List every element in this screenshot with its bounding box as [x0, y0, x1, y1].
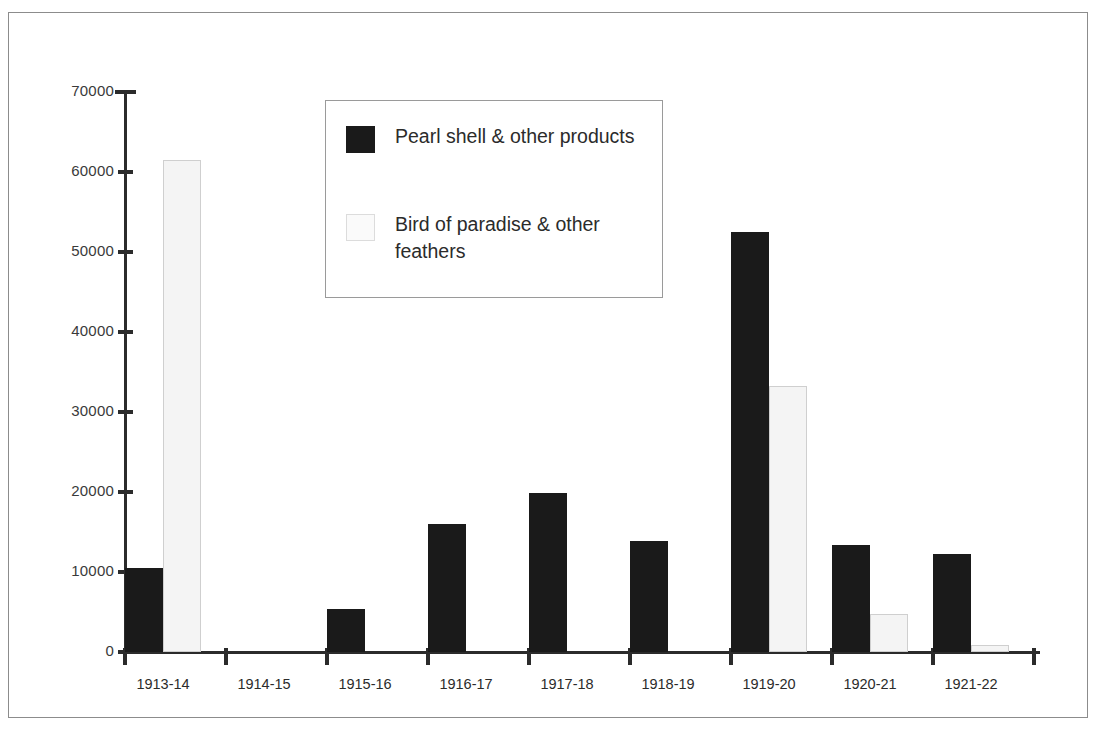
y-axis-tick-label: 0 — [44, 642, 114, 659]
y-axis-tick-label: 70000 — [44, 82, 114, 99]
bar — [933, 554, 971, 652]
x-axis-tick — [224, 648, 228, 665]
y-axis-tick — [118, 170, 133, 174]
legend-item-pearl-shell: Pearl shell & other products — [346, 123, 650, 153]
legend-item-bird-of-paradise: Bird of paradise & other feathers — [346, 211, 650, 265]
y-axis-tick-label: 30000 — [44, 402, 114, 419]
y-axis-tick-label: 40000 — [44, 322, 114, 339]
bar-chart-plot-area: 010000200003000040000500006000070000 191… — [0, 0, 1098, 732]
bar — [327, 609, 365, 652]
bar — [428, 524, 466, 652]
y-axis-tick — [118, 330, 133, 334]
legend-swatch-light-icon — [346, 214, 375, 241]
legend-label: Bird of paradise & other feathers — [395, 211, 650, 265]
y-axis-tick-label: 60000 — [44, 162, 114, 179]
bar — [630, 541, 668, 652]
y-axis-tick-label: 50000 — [44, 242, 114, 259]
legend-label: Pearl shell & other products — [395, 123, 650, 150]
y-axis-tick-label: 10000 — [44, 562, 114, 579]
x-axis-tick-label: 1920-21 — [820, 676, 921, 692]
x-axis-tick-label: 1917-18 — [517, 676, 618, 692]
bar — [769, 386, 807, 652]
y-axis-tick — [115, 90, 136, 94]
x-axis-tick-label: 1918-19 — [618, 676, 719, 692]
x-axis-tick-label: 1916-17 — [416, 676, 517, 692]
bar — [870, 614, 908, 652]
y-axis-tick-label: 20000 — [44, 482, 114, 499]
bar — [971, 645, 1009, 652]
x-axis-tick-label: 1921-22 — [921, 676, 1022, 692]
bar — [731, 232, 769, 652]
chart-legend: Pearl shell & other products Bird of par… — [325, 100, 663, 298]
y-axis-tick — [118, 410, 133, 414]
x-axis-end-tick — [1032, 648, 1036, 665]
x-axis-tick-label: 1919-20 — [719, 676, 820, 692]
x-axis-tick-label: 1913-14 — [113, 676, 214, 692]
x-axis-tick-label: 1915-16 — [315, 676, 416, 692]
x-axis-tick-label: 1914-15 — [214, 676, 315, 692]
legend-swatch-dark-icon — [346, 126, 375, 153]
bar — [832, 545, 870, 652]
bar — [529, 493, 567, 652]
y-axis-tick — [118, 250, 133, 254]
bar — [125, 568, 163, 652]
y-axis-tick — [118, 490, 133, 494]
bar — [163, 160, 201, 652]
